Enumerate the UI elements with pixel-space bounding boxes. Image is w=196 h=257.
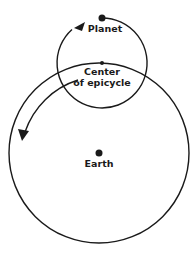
center-label-line2: of epicycle bbox=[73, 77, 131, 88]
earth-dot bbox=[96, 150, 103, 157]
deferent-arrow-icon bbox=[18, 129, 29, 141]
planet-label: Planet bbox=[88, 23, 123, 34]
earth-label: Earth bbox=[85, 158, 114, 169]
center-label-line1: Center bbox=[84, 66, 120, 77]
epicycle-diagram: Planet Center of epicycle Earth bbox=[0, 0, 196, 257]
deferent-motion-arrow bbox=[25, 80, 78, 132]
epicycle-arrow-icon bbox=[74, 22, 85, 31]
epicycle-center-dot bbox=[100, 61, 104, 65]
planet-dot bbox=[99, 15, 106, 22]
